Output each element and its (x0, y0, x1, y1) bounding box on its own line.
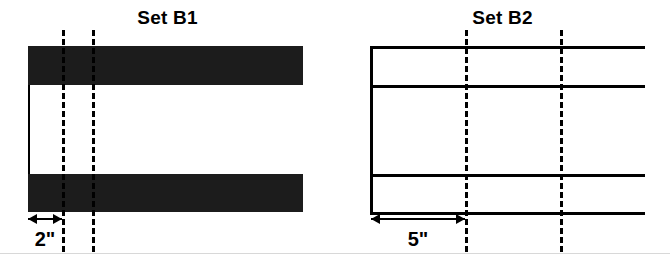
set-b1-left-edge (28, 85, 30, 174)
panel-title-set-b1: Set B1 (0, 6, 335, 30)
set-b2-station-line-1 (465, 30, 468, 252)
set-b2-station-line-2 (560, 30, 563, 252)
set-b2-left-edge (370, 46, 373, 214)
set-b1-station-line-2 (92, 30, 95, 252)
panel-set-b1: Set B1 (0, 0, 335, 264)
panel-title-set-b2: Set B2 (335, 6, 670, 30)
set-b2-dimension-arrow-right (456, 214, 465, 224)
set-b1-dimension-arrow-right (53, 214, 62, 224)
set-b1-dimension-label: 2" (15, 228, 75, 250)
set-b1-dimension-arrow-left (28, 214, 37, 224)
panel-set-b2: Set B2 (335, 0, 670, 264)
set-b1-station-line-1 (62, 30, 65, 252)
footer-divider (0, 253, 670, 254)
set-b2-dimension-label: 5" (388, 228, 448, 250)
set-b2-dimension-line (371, 218, 465, 220)
set-b2-rule-3 (370, 174, 645, 177)
set-b2-rule-4 (370, 212, 645, 215)
set-b2-rule-1 (370, 46, 645, 49)
set-b1-top-bar (28, 46, 303, 85)
technical-diagram: Set B1 2" Set B2 5" (0, 0, 670, 264)
set-b2-rule-2 (370, 85, 645, 88)
set-b2-dimension-arrow-left (371, 214, 380, 224)
set-b1-bottom-bar (28, 174, 303, 212)
